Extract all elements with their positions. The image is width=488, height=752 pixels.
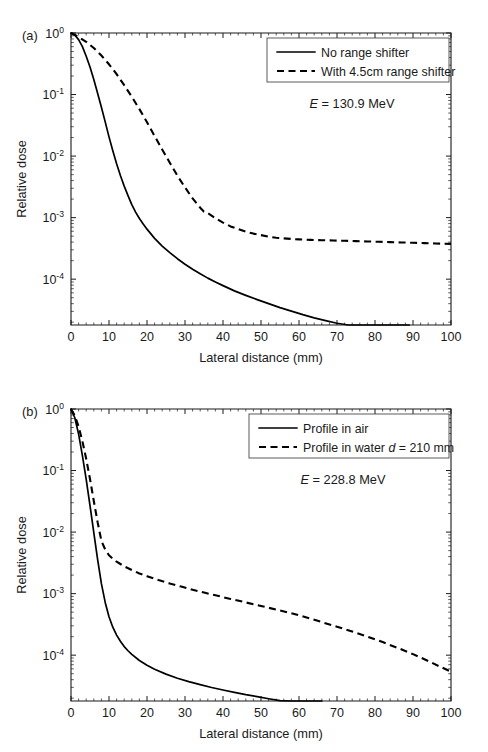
y-axis-title: Relative dose xyxy=(14,516,29,594)
x-tick-label: 100 xyxy=(441,706,462,720)
energy-annotation: E = 130.9 MeV xyxy=(309,96,394,111)
y-tick-label: 100 xyxy=(45,25,64,41)
x-tick-label: 90 xyxy=(406,330,420,344)
x-tick-label: 30 xyxy=(178,706,192,720)
x-tick-label: 0 xyxy=(68,706,75,720)
x-tick-label: 60 xyxy=(292,330,306,344)
x-tick-label: 10 xyxy=(102,330,116,344)
x-tick-label: 90 xyxy=(406,706,420,720)
y-tick-label: 10-4 xyxy=(42,647,64,663)
y-tick-label: 10-2 xyxy=(42,148,64,164)
y-tick-label: 100 xyxy=(45,401,64,417)
legend: No range shifterWith 4.5cm range shifter xyxy=(267,38,455,82)
legend: Profile in airProfile in water d = 210 m… xyxy=(249,414,454,458)
x-tick-label: 10 xyxy=(102,706,116,720)
x-tick-label: 40 xyxy=(216,706,230,720)
figure-container: 010203040506070809010010010-110-210-310-… xyxy=(0,0,488,752)
x-tick-label: 30 xyxy=(178,330,192,344)
panel-b-plot: 010203040506070809010010010-110-210-310-… xyxy=(0,376,488,752)
y-tick-label: 10-1 xyxy=(42,86,64,102)
x-tick-label: 20 xyxy=(140,330,154,344)
x-tick-label: 70 xyxy=(330,330,344,344)
legend-label-1: Profile in water d = 210 mm xyxy=(303,441,454,455)
y-tick-label: 10-3 xyxy=(42,209,64,225)
y-tick-label: 10-4 xyxy=(42,271,64,287)
x-axis-title: Lateral distance (mm) xyxy=(199,350,323,365)
y-axis-title: Relative dose xyxy=(14,140,29,218)
x-axis-title: Lateral distance (mm) xyxy=(199,726,323,741)
panel-a-plot: 010203040506070809010010010-110-210-310-… xyxy=(0,0,488,376)
x-tick-label: 20 xyxy=(140,706,154,720)
panel-letter: (b) xyxy=(22,404,38,419)
x-tick-label: 40 xyxy=(216,330,230,344)
panel-letter: (a) xyxy=(22,28,38,43)
x-tick-label: 80 xyxy=(368,330,382,344)
x-tick-label: 100 xyxy=(441,330,462,344)
legend-label-0: No range shifter xyxy=(321,46,409,60)
panel-b: 010203040506070809010010010-110-210-310-… xyxy=(0,376,488,752)
panel-a: 010203040506070809010010010-110-210-310-… xyxy=(0,0,488,376)
x-tick-label: 50 xyxy=(254,330,268,344)
y-tick-label: 10-2 xyxy=(42,524,64,540)
legend-label-0: Profile in air xyxy=(303,422,368,436)
x-tick-label: 60 xyxy=(292,706,306,720)
x-tick-label: 70 xyxy=(330,706,344,720)
x-tick-label: 80 xyxy=(368,706,382,720)
energy-annotation: E = 228.8 MeV xyxy=(300,472,385,487)
y-tick-label: 10-1 xyxy=(42,462,64,478)
x-tick-label: 0 xyxy=(68,330,75,344)
x-tick-label: 50 xyxy=(254,706,268,720)
legend-label-1: With 4.5cm range shifter xyxy=(321,65,455,79)
y-tick-label: 10-3 xyxy=(42,585,64,601)
